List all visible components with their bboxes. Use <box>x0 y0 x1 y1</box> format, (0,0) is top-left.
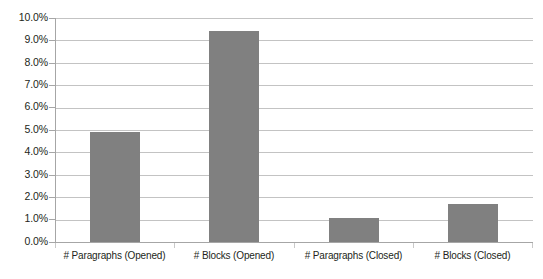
y-axis-tick-label: 4.0% <box>1 145 48 157</box>
y-axis-tick-label: 0.0% <box>1 235 48 247</box>
y-axis-line <box>55 18 56 243</box>
gridline <box>55 85 533 86</box>
x-axis-tick-mark <box>413 243 414 248</box>
bar <box>448 204 498 242</box>
y-axis-tick-label: 7.0% <box>1 78 48 90</box>
gridline <box>55 63 533 64</box>
bar <box>329 218 379 242</box>
y-axis-tick-label: 1.0% <box>1 212 48 224</box>
x-axis-tick-label: # Blocks (Opened) <box>174 250 294 261</box>
x-axis-tick-mark <box>532 243 533 248</box>
x-axis-tick-mark <box>294 243 295 248</box>
x-axis-tick-label: # Blocks (Closed) <box>413 250 532 261</box>
x-axis-tick-mark <box>174 243 175 248</box>
x-axis-tick-label: # Paragraphs (Closed) <box>294 250 413 261</box>
gridline <box>55 40 533 41</box>
bar <box>209 31 259 242</box>
gridline <box>55 130 533 131</box>
bar-chart: 10.0% 9.0% 8.0% 7.0% 6.0% 5.0% 4.0% 3.0%… <box>0 0 543 279</box>
y-axis-tick-label: 9.0% <box>1 33 48 45</box>
y-axis-tick-label: 10.0% <box>1 11 48 23</box>
y-axis-tick-label: 5.0% <box>1 123 48 135</box>
y-axis-tick-label: 3.0% <box>1 168 48 180</box>
x-axis-tick-mark <box>55 243 56 248</box>
bar <box>90 132 140 242</box>
gridline <box>55 108 533 109</box>
y-axis-tick-label: 2.0% <box>1 190 48 202</box>
y-axis-tick-label: 8.0% <box>1 56 48 68</box>
y-axis-tick-label: 6.0% <box>1 100 48 112</box>
x-axis-tick-label: # Paragraphs (Opened) <box>55 250 174 261</box>
gridline <box>55 18 533 19</box>
plot-area <box>55 18 533 242</box>
y-axis-labels: 10.0% 9.0% 8.0% 7.0% 6.0% 5.0% 4.0% 3.0%… <box>0 0 48 279</box>
